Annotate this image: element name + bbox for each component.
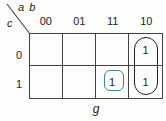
kmap-cell-11-0[interactable]	[96, 34, 129, 66]
column-header-10: 10	[130, 16, 164, 27]
kmap-cell-00-1[interactable]	[30, 66, 63, 98]
kmap-cell-01-0[interactable]	[63, 34, 96, 66]
group-loop-black[interactable]	[134, 37, 158, 95]
column-header-11: 11	[96, 16, 130, 27]
function-label: g	[29, 103, 163, 115]
column-variable-label: a b	[18, 2, 36, 13]
row-header-0: 0	[12, 50, 26, 61]
karnaugh-map-diagram: a b c 00 01 11 10 0 1 1 1 1	[0, 0, 166, 121]
column-header-01: 01	[63, 16, 97, 27]
kmap-cell-00-0[interactable]	[30, 34, 63, 66]
column-header-00: 00	[29, 16, 63, 27]
kmap-cell-01-1[interactable]	[63, 66, 96, 98]
row-variable-label: c	[7, 18, 13, 29]
row-header-1: 1	[12, 79, 26, 90]
group-loop-teal[interactable]	[104, 70, 124, 91]
